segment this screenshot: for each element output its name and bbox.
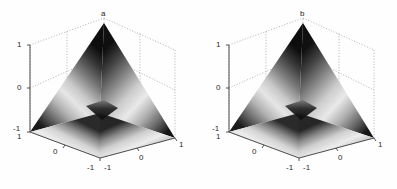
plot-panel-b: b 1 0 -1 1 0 -1 -1 0 1 (199, 0, 397, 189)
y-tick-label-b-0: 0 (252, 147, 256, 156)
z-tick-label-b-0: 0 (216, 83, 220, 92)
x-tick-label-b-1: 1 (378, 140, 382, 149)
plot-title-b: b (300, 9, 304, 18)
z-tick-label-a-1: 1 (17, 40, 21, 49)
x-tick-label-a-neg1: -1 (104, 163, 111, 172)
x-tick-label-a-0: 0 (139, 153, 143, 162)
figure-canvas: a 1 0 -1 1 0 -1 -1 0 1 (0, 0, 397, 189)
surface-mesh-a (30, 23, 175, 158)
surface-plot-a (0, 0, 198, 189)
y-tick-label-a-neg1: -1 (87, 163, 94, 172)
y-tick-label-a-1: 1 (17, 132, 21, 141)
surface-mesh-b (229, 23, 374, 158)
surface-plot-b (199, 0, 397, 189)
x-tick-label-b-neg1: -1 (303, 163, 310, 172)
x-tick-label-a-1: 1 (179, 140, 183, 149)
z-tick-label-b-1: 1 (216, 40, 220, 49)
plot-panel-a: a 1 0 -1 1 0 -1 -1 0 1 (0, 0, 198, 189)
y-tick-label-b-1: 1 (216, 132, 220, 141)
plot-title-a: a (101, 9, 105, 18)
x-tick-label-b-0: 0 (338, 153, 342, 162)
y-tick-label-a-0: 0 (53, 147, 57, 156)
y-tick-label-b-neg1: -1 (286, 163, 293, 172)
z-tick-label-a-0: 0 (17, 83, 21, 92)
